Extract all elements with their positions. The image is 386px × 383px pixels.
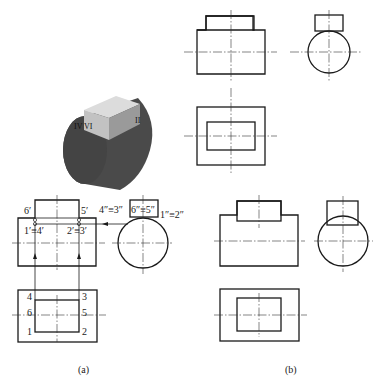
- caption-b: (b): [285, 364, 297, 376]
- iso-label-left2: VI: [84, 122, 93, 131]
- orthographic-projection-figure: IV VI II 6′ 5′ 1′≡4′ 2′≡3′ 4″≡3″ 6″≡5″ 1…: [0, 0, 386, 383]
- solution-front-view-b: [214, 195, 305, 266]
- given-side-view: [290, 10, 362, 82]
- label-2-3-prime: 2′≡3′: [67, 225, 87, 236]
- given-front-view: [184, 10, 277, 82]
- label-1-4-prime: 1′≡4′: [24, 225, 44, 236]
- label-4: 4: [27, 291, 32, 302]
- label-1: 1: [27, 326, 32, 337]
- label-2: 2: [82, 326, 87, 337]
- caption-a: (a): [78, 364, 89, 376]
- label-6-prime: 6′: [24, 205, 31, 216]
- label-6-5-double: 6″≡5″: [131, 204, 155, 215]
- solution-top-view-b: [214, 289, 307, 341]
- solution-side-view-a: 4″≡3″ 6″≡5″ 1″≡2″: [99, 195, 184, 274]
- solution-side-view-b: [314, 196, 373, 272]
- label-3: 3: [82, 291, 87, 302]
- iso-label-left: IV: [74, 122, 83, 131]
- label-6: 6: [27, 307, 32, 318]
- solution-top-view-a: 4 3 6 5 1 2: [12, 290, 106, 342]
- label-4-3-double: 4″≡3″: [99, 204, 123, 215]
- label-1-2-double: 1″≡2″: [160, 209, 184, 220]
- label-5-prime: 5′: [81, 205, 88, 216]
- given-top-view: [184, 88, 277, 175]
- iso-label-right: II: [135, 116, 141, 125]
- label-5: 5: [82, 307, 87, 318]
- isometric-model: IV VI II: [63, 96, 152, 190]
